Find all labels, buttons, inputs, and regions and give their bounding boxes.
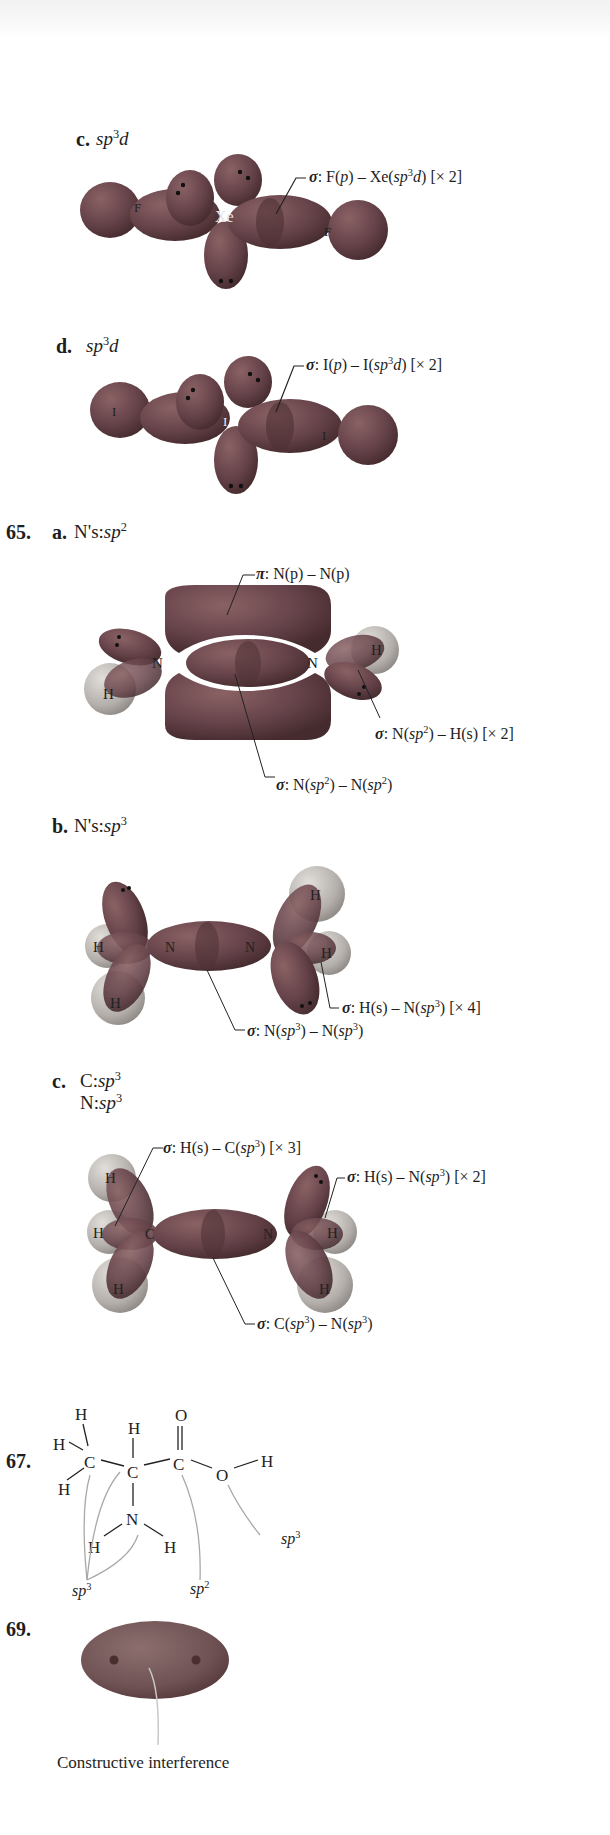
label-pi-n-n: π: N(p) – N(p): [256, 565, 350, 583]
hybrid-d: d: [119, 128, 129, 149]
atom-c: C: [84, 1453, 95, 1472]
atom-h: H: [310, 887, 321, 903]
atom-c: C: [173, 1455, 184, 1474]
part-65b-hybridization: N's:sp3: [74, 815, 127, 837]
part-65c-hybridization-c: C:sp3: [80, 1070, 121, 1092]
atom-o: O: [216, 1466, 228, 1485]
n2h2-orbital-diagram: N N H H: [85, 575, 385, 750]
atom-h: H: [105, 1170, 116, 1186]
part-c-label: c.: [76, 128, 90, 151]
part-65a-label: a.: [52, 521, 67, 544]
problem-65-number: 65.: [6, 521, 31, 544]
atom-o: O: [175, 1406, 187, 1425]
atom-f-left: F: [134, 200, 141, 215]
label-sigma-f-xe: σ: F(p) – Xe(sp3d) [× 2]: [309, 168, 462, 186]
atom-h-right: H: [371, 642, 382, 658]
atom-h: H: [75, 1405, 87, 1424]
part-d-hybridization: sp3d: [86, 335, 119, 357]
label-sigma-c-n: σ: C(sp3) – N(sp3): [257, 1315, 373, 1333]
atom-n-left: N: [152, 655, 163, 671]
atom-n-left: N: [165, 940, 175, 955]
atom-h: H: [261, 1452, 273, 1471]
i3-orbital-diagram: I I I: [90, 360, 410, 510]
atom-i-left: I: [112, 404, 116, 419]
atom-n: N: [263, 1227, 273, 1242]
part-65a-hybridization: N's:sp2: [74, 521, 127, 543]
atom-h: H: [113, 1281, 124, 1297]
atom-n-right: N: [245, 940, 255, 955]
atom-h: H: [110, 995, 121, 1011]
atom-h: H: [128, 1419, 140, 1438]
atom-h: H: [164, 1538, 176, 1557]
annotation-sp3-right: sp3: [281, 1530, 300, 1548]
label-sigma-n-n: σ: N(sp2) – N(sp2): [276, 776, 392, 794]
atom-h: H: [93, 939, 104, 955]
ch3nh2-orbital-diagram: H H H C N H H: [85, 1150, 375, 1330]
page-bleed-through: [0, 0, 610, 40]
atom-i-center: I: [223, 414, 227, 429]
label-sigma-h-n: σ: H(s) – N(sp3) [× 4]: [342, 999, 481, 1017]
atom-h-left: H: [103, 686, 114, 702]
label-sigma-n-n: σ: N(sp3) – N(sp3): [247, 1022, 363, 1040]
atom-n-right: N: [307, 655, 318, 671]
atom-i-right: I: [322, 428, 326, 443]
annotation-sp3-left: sp3: [72, 1582, 91, 1600]
atom-h: H: [319, 1281, 330, 1297]
annotation-sp2: sp2: [190, 1580, 209, 1598]
atom-c: C: [127, 1463, 138, 1482]
label-sigma-i-i: σ: I(p) – I(sp3d) [× 2]: [306, 356, 442, 374]
atom-h: H: [58, 1480, 70, 1499]
constructive-interference-orbital: [80, 1620, 240, 1750]
hybrid-sp: sp: [96, 128, 113, 149]
part-65c-label: c.: [52, 1070, 66, 1093]
part-d-label: d.: [56, 335, 72, 358]
problem-69-number: 69.: [6, 1618, 31, 1641]
part-65b-label: b.: [52, 815, 68, 838]
atom-h: H: [327, 1225, 338, 1241]
part-c-hybridization: sp3d: [96, 128, 129, 150]
alanine-structure: H H H C H C O C O H N H H: [50, 1400, 290, 1600]
n2h4-orbital-diagram: N N H H H H: [85, 848, 365, 1038]
atom-h: H: [321, 945, 332, 961]
label-sigma-h-c: σ: H(s) – C(sp3) [× 3]: [163, 1139, 301, 1157]
atom-f-right: F: [324, 224, 331, 239]
problem-67-number: 67.: [6, 1450, 31, 1473]
label-sigma-n-h: σ: N(sp2) – H(s) [× 2]: [375, 725, 514, 743]
atom-c: C: [145, 1227, 154, 1242]
label-sigma-h-n: σ: H(s) – N(sp3) [× 2]: [347, 1168, 486, 1186]
atom-n: N: [126, 1510, 138, 1529]
constructive-interference-caption: Constructive interference: [57, 1753, 229, 1773]
part-65c-hybridization-n: N:sp3: [80, 1092, 122, 1114]
atom-xe: Xe: [215, 208, 234, 225]
atom-h: H: [93, 1225, 104, 1241]
atom-h: H: [53, 1435, 65, 1454]
